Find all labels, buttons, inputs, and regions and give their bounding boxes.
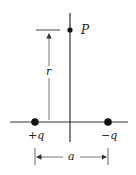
a-label: a	[68, 151, 75, 162]
r-label: r	[46, 66, 51, 77]
diagram-canvas	[0, 0, 136, 175]
point-p-dot	[67, 27, 72, 32]
positive-charge-label: +q	[28, 130, 44, 141]
positive-charge-dot	[31, 118, 39, 126]
dipole-diagram: P r +q −q a	[0, 0, 136, 175]
point-p-label: P	[81, 24, 89, 36]
negative-charge-label: −q	[101, 130, 117, 141]
negative-charge-dot	[104, 118, 112, 126]
